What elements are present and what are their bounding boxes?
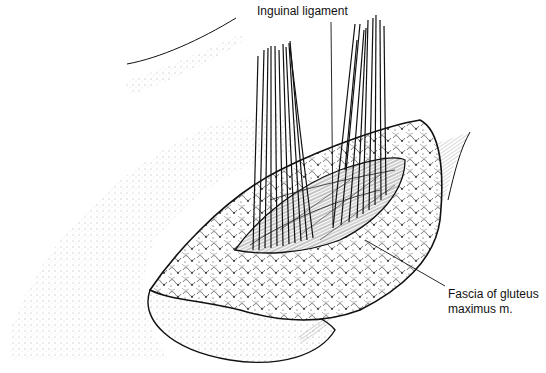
label-fascia-line1: Fascia of gluteus	[448, 287, 539, 302]
label-inguinal-ligament: Inguinal ligament	[257, 4, 348, 19]
label-fascia-gluteus-maximus: Fascia of gluteus maximus m.	[448, 287, 539, 317]
label-fascia-line2: maximus m.	[448, 302, 539, 317]
surgical-illustration	[0, 0, 546, 373]
